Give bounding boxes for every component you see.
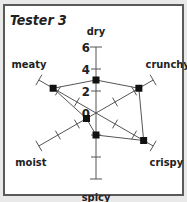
tick-label: 4 [82, 62, 90, 77]
tick-mark [36, 75, 42, 85]
tick-label: 6 [82, 40, 90, 55]
data-point-crispy [140, 137, 147, 144]
tick-mark [150, 141, 156, 151]
data-point-dry [93, 77, 100, 84]
axis-label-meaty: meaty [12, 58, 47, 71]
axis-label-dry: dry [87, 25, 106, 38]
tick-mark [150, 75, 156, 85]
tick-labels: 0246 [82, 40, 90, 121]
axis-labels: drycrunchycrispyspicymoistmeaty [12, 25, 187, 202]
chart-title: Tester 3 [10, 12, 67, 28]
data-point-moist [83, 115, 90, 122]
tick-mark [113, 120, 118, 129]
tick-label: 2 [82, 84, 90, 99]
tick-mark [113, 98, 118, 107]
tick-mark [74, 120, 79, 129]
axis-crunchy [96, 80, 153, 113]
axis-label-spicy: spicy [82, 191, 111, 202]
tick-mark [55, 131, 60, 140]
data-point-crunchy [135, 85, 142, 92]
tick-mark [132, 131, 137, 140]
axis-label-crunchy: crunchy [146, 58, 187, 71]
tick-mark [74, 98, 79, 107]
axis-label-moist: moist [15, 156, 46, 169]
axis-label-crispy: crispy [150, 156, 184, 169]
radar-axes [39, 47, 153, 179]
data-point-spicy [93, 132, 100, 139]
tick-mark [36, 141, 42, 151]
data-point-meaty [50, 85, 57, 92]
data-polygon [53, 80, 143, 141]
radar-chart: Tester 3 0246 drycrunchycrispyspicymoist… [0, 0, 187, 202]
